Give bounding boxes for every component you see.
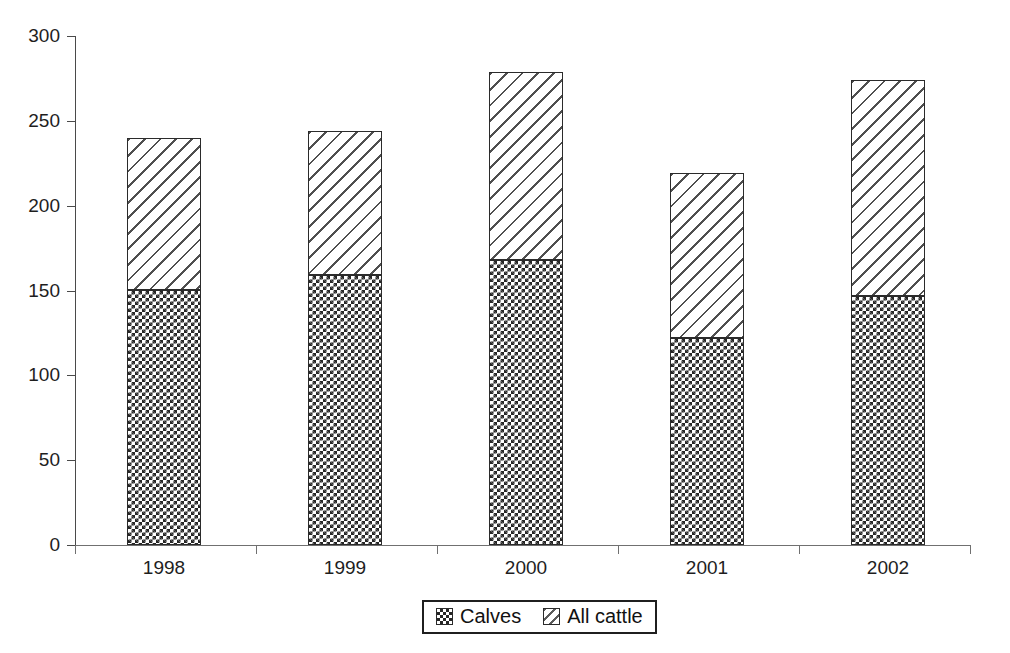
x-tick-mark bbox=[437, 545, 438, 554]
x-tick-mark bbox=[799, 545, 800, 554]
y-tick-mark bbox=[67, 375, 76, 376]
bar-segment-all-cattle-1999 bbox=[308, 131, 382, 275]
bar-group-1999 bbox=[308, 131, 382, 545]
y-tick-label: 50 bbox=[8, 449, 60, 471]
x-tick-label-2000: 2000 bbox=[466, 557, 586, 579]
legend-item-all-cattle: All cattle bbox=[543, 605, 643, 628]
bar-segment-all-cattle-2000 bbox=[489, 72, 563, 260]
y-tick-label: 100 bbox=[8, 364, 60, 386]
chart-legend: Calves All cattle bbox=[422, 600, 657, 634]
y-tick-label: 0 bbox=[8, 534, 60, 556]
y-tick-mark bbox=[67, 206, 76, 207]
x-tick-label-1998: 1998 bbox=[104, 557, 224, 579]
legend-label-calves: Calves bbox=[460, 605, 521, 628]
y-tick-label: 250 bbox=[8, 110, 60, 132]
bar-group-2002 bbox=[851, 80, 925, 545]
bar-segment-all-cattle-2001 bbox=[670, 173, 744, 338]
checkerboard-swatch-icon bbox=[436, 608, 453, 625]
bar-segment-calves-2000 bbox=[489, 260, 563, 545]
bar-group-1998 bbox=[127, 138, 201, 545]
diagonal-hatch-swatch-icon bbox=[543, 608, 560, 625]
y-tick-mark bbox=[67, 291, 76, 292]
bar-group-2000 bbox=[489, 72, 563, 545]
y-tick-mark bbox=[67, 460, 76, 461]
bar-segment-calves-2001 bbox=[670, 338, 744, 545]
y-tick-label: 300 bbox=[8, 25, 60, 47]
x-tick-mark bbox=[618, 545, 619, 554]
y-tick-mark bbox=[67, 36, 76, 37]
bar-segment-calves-1999 bbox=[308, 275, 382, 545]
bar-segment-calves-2002 bbox=[851, 296, 925, 545]
x-axis-line bbox=[75, 545, 970, 546]
x-tick-mark bbox=[256, 545, 257, 554]
y-tick-mark bbox=[67, 121, 76, 122]
x-tick-mark bbox=[970, 545, 971, 554]
legend-item-calves: Calves bbox=[436, 605, 521, 628]
x-tick-label-1999: 1999 bbox=[285, 557, 405, 579]
y-tick-label: 150 bbox=[8, 280, 60, 302]
bar-segment-all-cattle-1998 bbox=[127, 138, 201, 291]
bar-segment-calves-1998 bbox=[127, 290, 201, 545]
stacked-bar-chart: 050100150200250300 19981999200020012002 … bbox=[0, 0, 1010, 653]
bar-group-2001 bbox=[670, 173, 744, 545]
x-tick-mark bbox=[75, 545, 76, 554]
legend-label-all-cattle: All cattle bbox=[567, 605, 643, 628]
x-tick-label-2001: 2001 bbox=[647, 557, 767, 579]
bar-segment-all-cattle-2002 bbox=[851, 80, 925, 295]
y-tick-label: 200 bbox=[8, 195, 60, 217]
x-tick-label-2002: 2002 bbox=[828, 557, 948, 579]
